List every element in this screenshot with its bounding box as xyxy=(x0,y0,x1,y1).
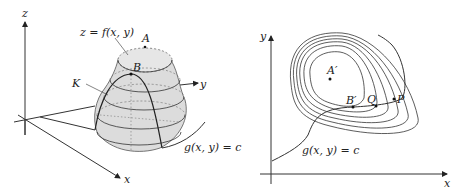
y-axis-left xyxy=(14,106,95,122)
constraint-label-right: g(x, y) = c xyxy=(302,144,359,157)
point-p-label: P xyxy=(396,93,405,106)
constraint-label-left: g(x, y) = c xyxy=(184,141,241,154)
x-axis-label: x xyxy=(124,173,131,186)
left-3d-figure: z y x z = f(x, y) A B K g(x, y) = c xyxy=(14,7,241,186)
right-2d-figure: y x A′ B′ Q P g(x, y) = c xyxy=(259,30,451,190)
constraint-curve-2d xyxy=(272,35,405,161)
point-q-label: Q xyxy=(367,93,376,106)
surface-label: z = f(x, y) xyxy=(79,26,134,39)
y-axis-label-2d: y xyxy=(259,30,267,43)
point-b-prime-label: B′ xyxy=(345,94,357,107)
point-b-label: B xyxy=(132,61,141,74)
point-a xyxy=(144,46,147,49)
point-a-label: A xyxy=(141,32,150,45)
level-curves xyxy=(290,33,418,134)
point-a-prime xyxy=(329,78,332,81)
point-a-prime-label: A′ xyxy=(326,64,338,77)
diagram-canvas: z y x z = f(x, y) A B K g(x, y) = c y x xyxy=(0,0,461,194)
point-p xyxy=(393,98,396,101)
z-axis-label: z xyxy=(21,7,28,20)
x-axis-label-2d: x xyxy=(444,177,451,190)
curve-k-label: K xyxy=(71,77,81,90)
y-axis-right xyxy=(180,83,198,85)
y-axis-label: y xyxy=(199,78,207,91)
